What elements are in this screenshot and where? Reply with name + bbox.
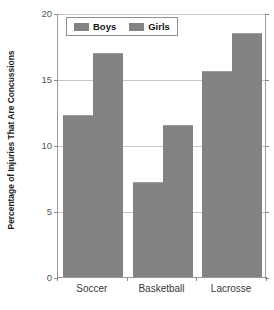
x-axis-tick-mark <box>127 277 128 281</box>
y-axis-tick-label: 10 <box>30 141 52 151</box>
bar-chart: Percentage of Injuries That Are Concussi… <box>0 0 274 310</box>
x-axis-ticks <box>57 277 266 282</box>
x-axis-tick-labels: SoccerBasketballLacrosse <box>57 283 264 303</box>
bar <box>163 125 193 277</box>
legend-label-boys: Boys <box>93 22 116 32</box>
bar <box>63 115 93 277</box>
bar <box>202 71 232 277</box>
x-axis-tick-label: Soccer <box>57 283 127 294</box>
bars-layer <box>58 14 265 277</box>
x-axis-tick-label: Lacrosse <box>196 283 266 294</box>
plot-area <box>57 14 266 278</box>
y-axis-title-text: Percentage of Injuries That Are Concussi… <box>6 51 16 230</box>
chart-legend: Boys Girls <box>66 17 178 36</box>
y-axis-tick-mark <box>265 14 269 15</box>
y-axis-tick-mark <box>265 146 269 147</box>
x-axis-tick-mark <box>196 277 197 281</box>
legend-entry-girls: Girls <box>129 22 170 32</box>
y-axis-tick-label: 0 <box>30 273 52 283</box>
x-axis-tick-label: Basketball <box>127 283 197 294</box>
bar <box>93 53 123 277</box>
legend-label-girls: Girls <box>148 22 170 32</box>
y-axis-tick-labels: 05101520 <box>26 0 52 310</box>
y-axis-title: Percentage of Injuries That Are Concussi… <box>0 0 22 280</box>
y-axis-tick-label: 5 <box>30 207 52 217</box>
x-axis-tick-mark <box>57 277 58 281</box>
x-axis-tick-mark <box>266 277 267 281</box>
y-axis-tick-mark <box>265 80 269 81</box>
y-axis-tick-label: 20 <box>30 9 52 19</box>
legend-swatch-boys-icon <box>74 23 89 31</box>
y-axis-tick-label: 15 <box>30 75 52 85</box>
bar <box>232 33 262 277</box>
legend-entry-boys: Boys <box>74 22 116 32</box>
bar <box>133 182 163 277</box>
y-axis-tick-mark <box>265 212 269 213</box>
legend-swatch-girls-icon <box>129 23 144 31</box>
